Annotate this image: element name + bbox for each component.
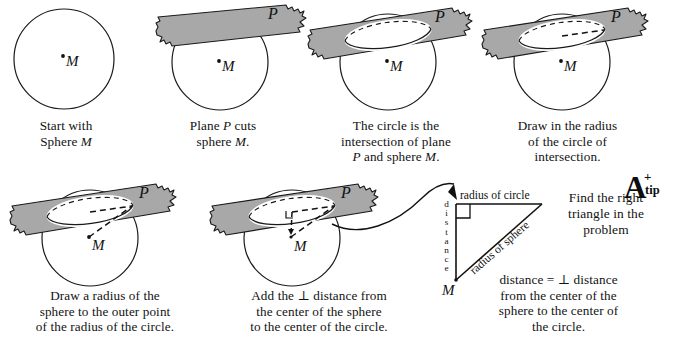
panel-3-caption: The circle is the intersection of plane … [310, 118, 482, 165]
panel-4-figure: M P [470, 0, 670, 118]
badge-tip-label: tip [645, 183, 660, 198]
cutting-plane [156, 5, 306, 46]
figure-sheet: M Start with Sphere M M P Plane P cuts s… [0, 0, 677, 346]
center-label-M: M [389, 58, 404, 74]
panel-2-caption: Plane P cuts sphere M. [148, 118, 298, 149]
panel-3-intersection-circle: M P [300, 0, 490, 118]
center-label-M: M [563, 58, 578, 74]
center-label-M: M [221, 58, 236, 74]
plane-label-P: P [610, 8, 621, 25]
panel-2-figure: M P [140, 0, 320, 118]
panel-5-sphere-radius: M P [8, 180, 198, 292]
panel-2-plane-cuts: M P [140, 0, 320, 118]
plane-label-P: P [434, 8, 445, 25]
sphere-circle [14, 9, 114, 109]
panel-6-caption: Add the ⊥ distance from the center of th… [208, 288, 430, 335]
center-label-M: M [293, 238, 308, 254]
callout-note: distance = ⊥ distance from the center of… [440, 272, 677, 334]
panel-3-figure: M P [300, 0, 490, 118]
center-point-M [61, 54, 65, 58]
center-point-M [217, 59, 221, 63]
center-point-M [289, 235, 292, 238]
panel-4-circle-radius: M P [470, 0, 670, 118]
panel-4-caption: Draw in the radius of the circle of inte… [485, 118, 650, 165]
panel-1-sphere: M [8, 4, 124, 116]
panel-1-figure: M [8, 4, 124, 116]
a-plus-tip-badge: A + tip [624, 172, 674, 208]
plane-label-P: P [267, 5, 278, 22]
center-label-M: M [91, 237, 106, 253]
triangle-leg-vertical-label: d i s t a n c e [442, 200, 451, 274]
center-point-M [559, 59, 563, 63]
panel-5-caption: Draw a radius of the sphere to the outer… [0, 288, 210, 335]
panel-5-figure: M P [8, 180, 198, 292]
center-point-M [385, 59, 389, 63]
right-angle-mark [456, 204, 470, 218]
panel-1-caption: Start with Sphere M [0, 118, 132, 149]
center-point-M [87, 235, 91, 239]
plane-label-P: P [138, 184, 149, 201]
center-label-M: M [65, 53, 80, 69]
triangle-leg-horizontal-label: radius of circle [460, 190, 530, 202]
